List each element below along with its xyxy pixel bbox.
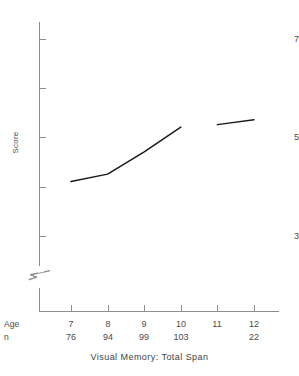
age-value-8: 8 — [91, 320, 125, 329]
age-value-10: 10 — [164, 320, 198, 329]
age-row-label: Age — [4, 320, 19, 329]
y-tick-label-5: 5 — [285, 133, 299, 142]
x-tick-9 — [144, 305, 145, 311]
chart-figure: 7 5 3 Score Age n 7 8 9 10 11 12 76 94 9… — [0, 0, 299, 376]
age-value-11: 11 — [200, 320, 234, 329]
n-value-age-8: 94 — [91, 333, 125, 342]
x-tick-12 — [254, 305, 255, 311]
y-tick-label-7: 7 — [285, 35, 299, 44]
n-value-age-7: 76 — [54, 333, 88, 342]
y-tick-6-minor — [40, 88, 46, 89]
x-axis-line — [39, 311, 279, 312]
n-value-age-10: 103 — [164, 333, 198, 342]
x-tick-10 — [181, 305, 182, 311]
age-value-7: 7 — [54, 320, 88, 329]
age-value-12: 12 — [237, 320, 271, 329]
y-tick-7 — [40, 39, 46, 40]
y-tick-5 — [40, 137, 46, 138]
age-value-9: 9 — [127, 320, 161, 329]
n-value-age-12: 22 — [237, 333, 271, 342]
x-tick-11 — [217, 305, 218, 311]
n-row-label: n — [4, 333, 9, 342]
y-axis-title: Score — [11, 119, 20, 167]
x-tick-8 — [108, 305, 109, 311]
x-tick-7 — [71, 305, 72, 311]
chart-title: Visual Memory: Total Span — [0, 352, 299, 362]
n-value-age-9: 99 — [127, 333, 161, 342]
y-tick-label-3: 3 — [285, 232, 299, 241]
y-tick-3 — [40, 236, 46, 237]
y-tick-4-minor — [40, 187, 46, 188]
y-axis-break-icon — [28, 266, 54, 288]
